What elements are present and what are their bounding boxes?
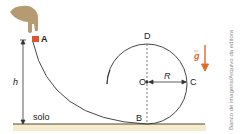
point-b-label: B bbox=[136, 114, 142, 123]
image-credit: Banco de imagens/Arquivo da editora bbox=[226, 4, 236, 130]
ground-label: solo bbox=[33, 113, 50, 122]
track-ramp bbox=[33, 42, 147, 124]
height-arrow bbox=[20, 40, 26, 124]
height-label: h bbox=[13, 78, 18, 87]
block bbox=[32, 36, 39, 42]
point-o-label: O bbox=[139, 78, 146, 87]
gravity-vector-icon bbox=[202, 45, 209, 71]
radius-label: R bbox=[164, 72, 171, 81]
ground-band bbox=[13, 124, 206, 131]
point-a-label: A bbox=[41, 35, 48, 44]
point-d-label: D bbox=[144, 32, 151, 41]
point-c-label: C bbox=[190, 78, 197, 87]
gravity-label: g bbox=[194, 52, 200, 61]
hand-icon bbox=[10, 6, 38, 33]
